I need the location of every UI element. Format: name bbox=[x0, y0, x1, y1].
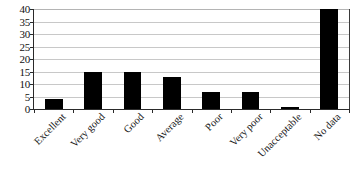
y-axis-tick-label: 20 bbox=[0, 54, 30, 65]
bar bbox=[45, 99, 63, 109]
y-axis-tick-label: 40 bbox=[0, 4, 30, 15]
x-axis-category-labels: ExcellentVery goodGoodAveragePoorVery po… bbox=[33, 111, 348, 171]
bar bbox=[124, 72, 142, 110]
x-axis-category-label: Very poor bbox=[227, 111, 264, 148]
y-axis-tick-labels: 0510152025303540 bbox=[0, 9, 30, 109]
y-axis-tick-label: 25 bbox=[0, 41, 30, 52]
bar-series bbox=[34, 9, 349, 109]
y-axis-tick-label: 0 bbox=[0, 104, 30, 115]
x-axis-category-label: Poor bbox=[203, 111, 225, 133]
bar bbox=[202, 92, 220, 110]
y-axis-tick-label: 15 bbox=[0, 66, 30, 77]
bar-chart: 0510152025303540 ExcellentVery goodGoodA… bbox=[0, 0, 362, 171]
x-axis-tick-mark bbox=[349, 109, 350, 113]
x-axis-category-label: No data bbox=[312, 111, 343, 142]
x-axis-category-label: Good bbox=[122, 111, 146, 135]
x-axis-category-label: Excellent bbox=[32, 111, 68, 147]
bar bbox=[320, 9, 338, 109]
bar bbox=[163, 77, 181, 110]
bar bbox=[281, 107, 299, 110]
y-axis-tick-label: 30 bbox=[0, 29, 30, 40]
bar bbox=[242, 92, 260, 110]
y-axis-tick-label: 35 bbox=[0, 16, 30, 27]
bar bbox=[84, 72, 102, 110]
plot-area bbox=[33, 9, 350, 110]
x-axis-category-label: Very good bbox=[68, 111, 107, 150]
y-axis-tick-label: 10 bbox=[0, 79, 30, 90]
y-axis-tick-label: 5 bbox=[0, 91, 30, 102]
x-axis-category-label: Average bbox=[153, 111, 185, 143]
